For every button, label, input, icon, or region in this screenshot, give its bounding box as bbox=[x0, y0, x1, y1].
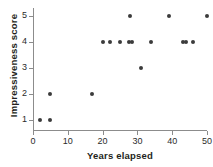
x-tick bbox=[103, 131, 104, 135]
data-point bbox=[149, 40, 153, 44]
y-tick bbox=[29, 94, 33, 95]
x-tick-label: 40 bbox=[157, 136, 187, 147]
data-point bbox=[139, 66, 143, 70]
data-point bbox=[205, 14, 209, 18]
x-tick bbox=[172, 131, 173, 135]
x-tick bbox=[68, 131, 69, 135]
data-point bbox=[108, 40, 112, 44]
x-tick-label: 30 bbox=[122, 136, 152, 147]
plot-area bbox=[33, 6, 207, 130]
y-tick bbox=[29, 68, 33, 69]
data-point bbox=[128, 14, 132, 18]
y-tick bbox=[29, 120, 33, 121]
x-axis-line bbox=[33, 130, 207, 131]
data-point bbox=[101, 40, 105, 44]
data-point bbox=[38, 118, 42, 122]
x-axis-label: Years elapsed bbox=[33, 150, 207, 161]
x-tick-label: 0 bbox=[18, 136, 48, 147]
data-point bbox=[130, 40, 134, 44]
data-point bbox=[184, 40, 188, 44]
data-point bbox=[191, 40, 195, 44]
scatter-plot-figure: 01020304050 12345 Years elapsed Impressi… bbox=[0, 0, 213, 167]
x-tick-label: 50 bbox=[192, 136, 213, 147]
data-point bbox=[48, 92, 52, 96]
data-point bbox=[90, 92, 94, 96]
x-tick-label: 20 bbox=[88, 136, 118, 147]
x-tick bbox=[207, 131, 208, 135]
y-axis-line bbox=[33, 8, 34, 130]
y-axis-label: Impressiveness score bbox=[8, 1, 19, 131]
x-tick bbox=[33, 131, 34, 135]
data-point bbox=[48, 118, 52, 122]
x-tick-label: 10 bbox=[53, 136, 83, 147]
data-point bbox=[167, 14, 171, 18]
x-tick bbox=[137, 131, 138, 135]
y-tick bbox=[29, 16, 33, 17]
data-point bbox=[118, 40, 122, 44]
y-tick bbox=[29, 42, 33, 43]
